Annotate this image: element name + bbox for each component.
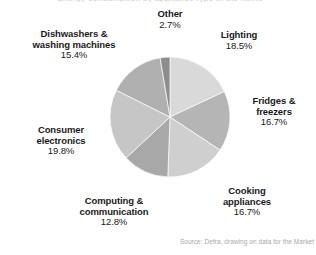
pie-label-lighting: Lighting 18.5% (196, 30, 282, 51)
pie-label-other: Other 2.7% (130, 9, 210, 30)
pie-label-fridges-freezers-pct: 16.7% (234, 117, 314, 128)
pie-label-cooking-appliances-pct: 16.7% (206, 207, 288, 218)
pie-label-consumer-electronics: Consumer electronics 19.8% (14, 125, 108, 157)
pie-label-computing-communication-pct: 12.8% (56, 217, 172, 228)
pie-label-computing-communication: Computing & communication 12.8% (56, 196, 172, 228)
source-note: Source: Defra, drawing on data for the M… (180, 238, 314, 245)
pie-label-cooking-appliances: Cooking appliances 16.7% (206, 186, 288, 218)
pie-label-consumer-electronics-pct: 19.8% (14, 146, 108, 157)
pie-label-other-pct: 2.7% (130, 20, 210, 31)
pie-label-fridges-freezers: Fridges & freezers 16.7% (234, 96, 314, 128)
pie-label-lighting-pct: 18.5% (196, 41, 282, 52)
pie-chart-figure: Energy consumption by appliance type in … (0, 0, 316, 255)
pie-label-dishwashers-washing-machines: Dishwashers & washing machines 15.4% (12, 29, 136, 61)
pie-label-dishwashers-washing-machines-pct: 15.4% (12, 50, 136, 61)
